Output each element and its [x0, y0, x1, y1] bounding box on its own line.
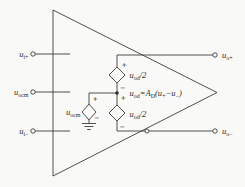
input-ocm-terminal [31, 90, 35, 94]
circuit-diagram: ui+ uocm ui− + − uocm + − + − uod/2 uod/… [0, 0, 245, 187]
ocm-source-label: uocm [66, 107, 81, 118]
output-pos-terminal [213, 53, 217, 57]
input-ocm-label: uocm [14, 87, 29, 98]
equation-label: uod=AD(u+−u−) [130, 88, 182, 99]
od-source-bottom-diamond [109, 105, 125, 121]
od-top-minus-mark: − [120, 84, 125, 92]
ocm-source-minus-mark: − [94, 114, 99, 122]
od-top-plus-mark: + [122, 61, 127, 69]
output-neg-label: uo− [222, 126, 233, 137]
od-source-top-diamond [109, 67, 125, 83]
input-pos-label: ui+ [19, 49, 29, 60]
ocm-source-plus-mark: + [93, 95, 98, 103]
od-bottom-minus-mark: − [120, 123, 125, 131]
output-neg-junction-circle [145, 129, 149, 133]
od-bottom-plus-mark: + [121, 94, 126, 102]
output-neg-terminal [213, 129, 217, 133]
output-pos-label: uo+ [222, 50, 233, 61]
input-neg-terminal [31, 129, 35, 133]
input-pos-terminal [31, 52, 35, 56]
input-neg-label: ui− [19, 126, 29, 137]
od-top-value-label: uod/2 [130, 70, 148, 81]
od-bottom-value-label: uod/2 [130, 109, 148, 120]
node-dot [115, 91, 119, 95]
